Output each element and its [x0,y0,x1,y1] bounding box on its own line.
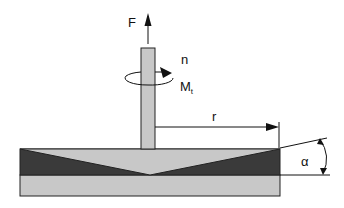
radius-dimension [155,122,279,148]
shaft [141,48,155,149]
force-arrow [145,13,152,44]
speed-label: n [181,52,188,67]
torque-label: Mt [180,79,194,96]
radius-label: r [212,109,217,124]
bottom-plate [20,175,280,196]
cone-plate-diagram: F n Mt r α [0,0,344,208]
angle-label: α [301,154,309,169]
force-label: F [128,15,136,30]
